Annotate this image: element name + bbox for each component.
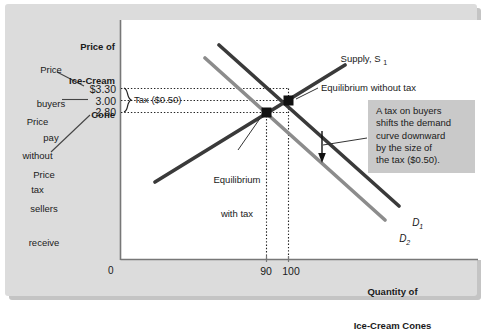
demand-curve-d2-label: D2 (388, 221, 410, 259)
supply-curve-label-text: Supply, S (341, 53, 381, 64)
equilibrium-with-tax-marker (262, 108, 272, 118)
label-price-sellers-receive-line1: Price (14, 169, 74, 180)
tax-bracket-label: Tax ($0.50) (134, 94, 182, 105)
origin-label: 0 (108, 265, 114, 277)
callout-line3: curve downward (376, 130, 468, 142)
x-axis-title-line1: Quantity of (330, 286, 455, 297)
supply-curve-label-sub: 1 (383, 59, 387, 66)
callout-line5: the tax ($0.50). (376, 154, 468, 166)
x-axis-title-line2: Ice-Cream Cones (330, 320, 455, 331)
label-equilibrium-with-tax-line1: Equilibrium (187, 174, 287, 185)
label-equilibrium-with-tax: Equilibrium with tax (187, 152, 287, 242)
equilibrium-without-tax-marker (284, 96, 294, 106)
supply-curve-label: Supply, S 1 (330, 42, 387, 79)
y-tick-label-330: $3.30 (60, 83, 116, 95)
x-tick-label-100: 100 (275, 265, 307, 277)
callout-line1: A tax on buyers (376, 105, 468, 117)
callout-line4: by the size of (376, 142, 468, 154)
leader-callout (323, 138, 367, 145)
label-price-sellers-receive-line3: receive (14, 237, 74, 248)
callout-line2: shifts the demand (376, 117, 468, 129)
demand-curve-d1-label-sub: 1 (419, 223, 423, 230)
demand-curve-d2-label-sub: 2 (406, 239, 410, 246)
y-tick-label-280: 2.80 (60, 106, 116, 118)
label-equilibrium-without-tax: Equilibrium without tax (321, 82, 416, 93)
label-equilibrium-with-tax-line2: with tax (187, 208, 287, 219)
label-price-buyers-pay-line1: Price (20, 64, 82, 75)
label-price-sellers-receive-line2: sellers (14, 203, 74, 214)
callout-box: A tax on buyers shifts the demand curve … (368, 100, 475, 173)
label-price-sellers-receive: Price sellers receive (14, 147, 74, 270)
label-price-without-tax-line1: Price (10, 116, 65, 127)
x-axis-title: Quantity of Ice-Cream Cones (330, 264, 455, 333)
